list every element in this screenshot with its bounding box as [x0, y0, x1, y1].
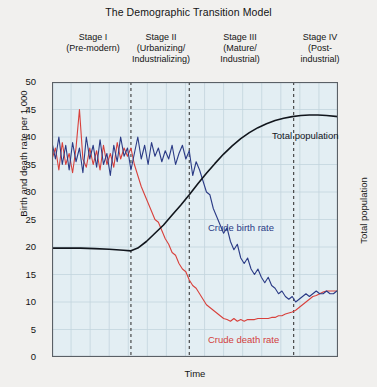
stage-sub-1: (Pre-modern) [58, 43, 128, 54]
y-tick-0: 0 [8, 351, 36, 362]
stage-sub-4: (Post- industrial) [285, 43, 355, 65]
stage-name-2: Stage II [124, 32, 198, 43]
chart-svg [52, 82, 338, 357]
stage-header-3: Stage III (Mature/ Industrial) [203, 32, 277, 66]
stage-name-4: Stage IV [285, 32, 355, 43]
stage-header-4: Stage IV (Post- industrial) [285, 32, 355, 66]
stage-name-1: Stage I [58, 32, 128, 43]
y-tick-30: 30 [8, 186, 36, 197]
chart-title: The Demographic Transition Model [0, 6, 377, 18]
y-tick-35: 35 [8, 159, 36, 170]
stage-header-2: Stage II (Urbanizing/ Industrializing) [124, 32, 198, 66]
y-tick-5: 5 [8, 324, 36, 335]
y-tick-45: 45 [8, 104, 36, 115]
y-tick-50: 50 [8, 76, 36, 87]
y-tick-25: 25 [8, 214, 36, 225]
stage-sub-2: (Urbanizing/ Industrializing) [124, 43, 198, 65]
stage-name-3: Stage III [203, 32, 277, 43]
y-tick-15: 15 [8, 269, 36, 280]
series-label-death-rate: Crude death rate [208, 334, 279, 345]
y-tick-40: 40 [8, 131, 36, 142]
y-tick-20: 20 [8, 241, 36, 252]
y-axis-label-right: Total population [358, 136, 369, 286]
chart-figure: The Demographic Transition Model Stage I… [0, 0, 377, 387]
stage-sub-3: (Mature/ Industrial) [203, 43, 277, 65]
x-axis-label: Time [52, 368, 338, 379]
series-label-birth-rate: Crude birth rate [208, 222, 274, 233]
series-label-population: Total population [272, 130, 339, 141]
plot-area: Total population Crude birth rate Crude … [52, 82, 338, 357]
stage-header-1: Stage I (Pre-modern) [58, 32, 128, 54]
y-tick-10: 10 [8, 296, 36, 307]
